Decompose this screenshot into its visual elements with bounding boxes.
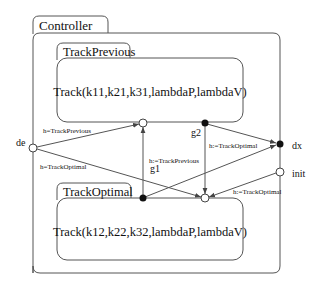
port-g1[interactable] <box>140 195 147 202</box>
transition-label: h=TrackPrevious <box>43 127 91 135</box>
track-optimal-label: TrackOptimal <box>63 185 133 199</box>
port-g2-label: g2 <box>191 127 201 138</box>
port-init[interactable] <box>276 168 284 176</box>
port-dx-label: dx <box>292 140 302 151</box>
port-init-label: init <box>292 168 306 179</box>
port-g2[interactable] <box>202 120 209 127</box>
track-previous-body: Track(k11,k21,k31,lambdaP,lambdaV) <box>53 85 247 99</box>
transition-de-to-track-previous[interactable]: h=TrackPrevious <box>37 124 139 147</box>
port-dx[interactable] <box>277 141 284 148</box>
transition-label: h=TrackOptimal <box>40 163 87 171</box>
transition-init-to-track-optimal[interactable]: h:=TrackOptimal <box>209 173 281 197</box>
port-de-label: de <box>16 137 26 148</box>
track-previous-state[interactable]: TrackPrevious Track(k11,k21,k31,lambdaP,… <box>53 43 247 122</box>
track-previous-label: TrackPrevious <box>63 45 136 59</box>
controller-label: Controller <box>39 18 93 33</box>
port-g1-label: g1 <box>150 163 160 174</box>
track-previous-entry[interactable] <box>139 119 147 127</box>
transition-g2-to-dx[interactable]: h:=TrackOptimal <box>207 124 276 150</box>
statechart-diagram: Controller TrackPrevious Track(k11,k21,k… <box>0 0 322 284</box>
port-de[interactable] <box>29 144 37 152</box>
track-optimal-entry[interactable] <box>201 194 209 202</box>
track-optimal-body: Track(k12,k22,k32,lambdaP,lambdaV) <box>53 225 247 239</box>
transition-label: h:=TrackOptimal <box>233 188 281 196</box>
transition-label: h:=TrackOptimal <box>209 142 257 150</box>
